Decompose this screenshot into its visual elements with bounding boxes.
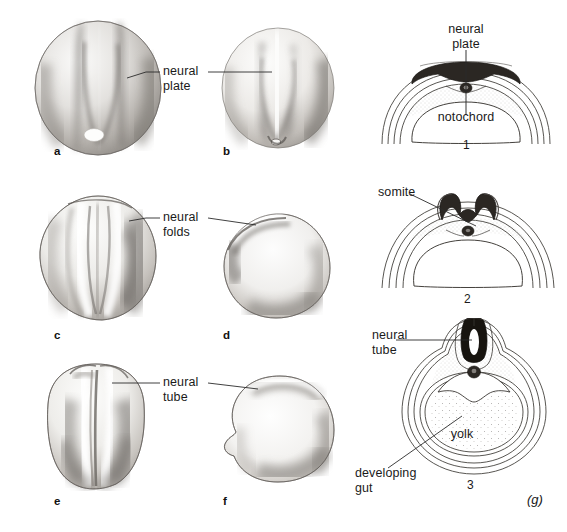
embryo-photo-b [216, 24, 342, 156]
label-neural-folds: neural folds [163, 210, 209, 239]
section-number-3: 3 [467, 478, 474, 492]
section-number-1: 1 [463, 138, 470, 152]
embryo-photo-f [218, 370, 342, 488]
figure-tag: (g) [527, 492, 543, 507]
panel-letter-b: b [223, 145, 230, 157]
label-notochord: notochord [404, 110, 528, 125]
label-developing-gut: developing gut [355, 466, 435, 495]
panel-letter-c: c [54, 329, 60, 341]
panel-letter-a: a [54, 145, 60, 157]
label-neural-plate-section: neural plate [432, 22, 500, 51]
embryo-photo-d [212, 206, 336, 324]
embryo-photo-e [40, 360, 152, 492]
embryo-photo-c [32, 192, 164, 324]
label-yolk: yolk [442, 427, 482, 442]
label-neural-tube-section: neural tube [372, 328, 422, 357]
panel-letter-d: d [223, 329, 230, 341]
section-number-2: 2 [464, 292, 471, 306]
label-somite: somite [378, 185, 442, 200]
label-neural-tube: neural tube [163, 375, 209, 404]
panel-letter-f: f [223, 495, 227, 507]
panel-letter-e: e [54, 495, 60, 507]
embryo-photo-a [28, 18, 168, 160]
cross-section-2 [380, 190, 556, 290]
cross-section-1 [376, 58, 556, 146]
label-neural-plate: neural plate [163, 64, 209, 93]
neurulation-figure: a b c d e f neural plate neural folds ne… [0, 0, 567, 532]
